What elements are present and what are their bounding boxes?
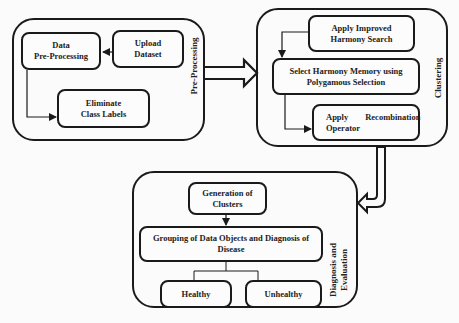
- node-label: Healthy: [182, 289, 211, 300]
- node-apply-ihs: Apply Improved Harmony Search: [308, 15, 415, 52]
- stage-label-diagnosis: Diagnosis and Evaluation: [328, 230, 352, 310]
- node-unhealthy: Unhealthy: [245, 280, 322, 308]
- node-label: Unhealthy: [265, 289, 303, 300]
- node-label: Select Harmony Memory using Polygamous S…: [289, 66, 402, 88]
- node-label: Upload Dataset: [134, 38, 161, 60]
- node-eliminate-class-labels: Eliminate Class Labels: [57, 89, 150, 128]
- node-upload-dataset: Upload Dataset: [112, 30, 184, 68]
- stage-label-clustering: Clustering: [433, 43, 445, 113]
- node-apply-recombination: Apply Recombination Operator: [312, 104, 420, 141]
- stage-label-preprocessing: Pre-Processing: [189, 26, 201, 106]
- node-label: Apply Improved Harmony Search: [331, 23, 393, 45]
- node-label: Apply Recombination Operator: [326, 112, 420, 134]
- node-grouping-diagnosis: Grouping of Data Objects and Diagnosis o…: [139, 226, 323, 262]
- node-label: Generation of Clusters: [202, 188, 252, 210]
- hollow-arrow-preprocess-to-clustering: [205, 60, 257, 86]
- node-label: Data Pre-Processing: [34, 40, 88, 62]
- hollow-arrow-clustering-to-diagnosis: [358, 147, 385, 212]
- node-generation-of-clusters: Generation of Clusters: [188, 182, 267, 215]
- node-healthy: Healthy: [160, 280, 232, 308]
- node-label: Eliminate Class Labels: [81, 98, 127, 120]
- node-data-preprocessing: Data Pre-Processing: [21, 32, 101, 70]
- node-select-harmony-memory: Select Harmony Memory using Polygamous S…: [272, 58, 420, 95]
- node-label: Grouping of Data Objects and Diagnosis o…: [153, 233, 309, 255]
